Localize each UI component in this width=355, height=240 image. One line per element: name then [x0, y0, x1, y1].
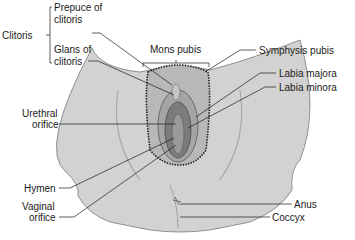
- label-hymen: Hymen: [24, 183, 56, 194]
- label-prepuce-line1: Prepuce of: [54, 2, 102, 13]
- label-prepuce-line2: clitoris: [54, 14, 82, 25]
- clitoral-hood: [172, 84, 180, 100]
- label-anus: Anus: [294, 199, 317, 210]
- label-urethral-line2: orifice: [32, 119, 59, 130]
- label-urethral-line1: Urethral: [22, 108, 58, 119]
- label-glans-line1: Glans of: [54, 44, 91, 55]
- label-mons-pubis: Mons pubis: [150, 44, 201, 55]
- vestibule: [172, 114, 184, 154]
- label-clitoris: Clitoris: [2, 30, 33, 41]
- label-vaginal-line1: Vaginal: [22, 201, 55, 212]
- label-coccyx: Coccyx: [272, 212, 305, 223]
- label-vaginal-line2: orifice: [29, 212, 56, 223]
- label-symphysis-pubis: Symphysis pubis: [259, 45, 334, 56]
- label-glans-line2: clitoris: [54, 56, 82, 67]
- label-labia-majora: Labia majora: [279, 68, 337, 79]
- label-labia-minora: Labia minora: [279, 82, 337, 93]
